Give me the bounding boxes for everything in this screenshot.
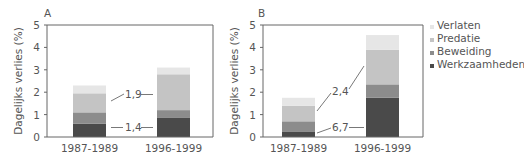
bar-segment-werkzaamheden <box>157 118 190 137</box>
bar-segment-predatie <box>73 93 106 112</box>
annotation-a-predatie: 1,9 <box>125 88 142 100</box>
x-tick-label: 1987-1989 <box>61 142 118 154</box>
legend-label-verlaten: Verlaten <box>437 19 481 31</box>
bar-segment-beweiding <box>366 84 399 97</box>
y-ticks-a: 012345 <box>33 19 47 143</box>
y-tick-label: 2 <box>33 86 40 98</box>
bar-segment-verlaten <box>157 68 190 75</box>
bar-segment-werkzaamheden <box>366 98 399 137</box>
legend-swatch-verlaten <box>430 25 434 29</box>
annotation-b-predatie: 2,4 <box>332 85 349 97</box>
bar-segment-predatie <box>282 106 315 122</box>
y-tick-label: 0 <box>249 131 256 143</box>
x-tick-labels-a: 1987-19891996-1999 <box>61 142 202 154</box>
y-axis-label-b: Dagelijks verlies (%) <box>228 27 240 135</box>
y-tick-label: 5 <box>33 19 40 31</box>
figure: A Dagelijks verlies (%) 012345 1987-1989… <box>0 0 524 159</box>
annotation-line <box>317 128 331 133</box>
annotations-a: 1,9 1,4 <box>111 88 153 133</box>
y-tick-label: 3 <box>33 64 40 76</box>
panel-a: A Dagelijks verlies (%) 012345 1987-1989… <box>12 7 213 154</box>
panel-b: B Dagelijks verlies (%) 012345 1987-1989… <box>228 7 423 154</box>
annotation-line <box>111 94 124 101</box>
y-tick-label: 1 <box>249 109 256 121</box>
x-tick-label: 1996-1999 <box>145 142 202 154</box>
legend-label-predatie: Predatie <box>437 32 480 44</box>
annotation-line <box>349 66 364 89</box>
y-tick-label: 3 <box>249 64 256 76</box>
y-tick-label: 4 <box>33 41 40 53</box>
legend-swatch-werkzaamheden <box>430 64 434 68</box>
y-tick-label: 1 <box>33 109 40 121</box>
bar-segment-predatie <box>366 50 399 85</box>
bar-segment-verlaten <box>73 85 106 93</box>
y-tick-label: 0 <box>33 131 40 143</box>
annotation-b-werkzaamheden: 6,7 <box>332 121 349 133</box>
x-tick-labels-b: 1987-19891996-1999 <box>270 142 411 154</box>
annotations-b: 2,4 6,7 <box>317 66 364 133</box>
y-tick-label: 2 <box>249 86 256 98</box>
bar-segment-predatie <box>157 74 190 110</box>
bar-segment-verlaten <box>366 35 399 50</box>
y-axis-label-a: Dagelijks verlies (%) <box>12 27 24 135</box>
x-tick-label: 1996-1999 <box>354 142 411 154</box>
y-ticks-b: 012345 <box>249 19 263 143</box>
legend: VerlatenPredatieBeweidingWerkzaamheden <box>430 19 524 70</box>
legend-label-werkzaamheden: Werkzaamheden <box>437 58 524 70</box>
annotation-line <box>317 93 331 111</box>
legend-swatch-beweiding <box>430 51 434 55</box>
y-tick-label: 5 <box>249 19 256 31</box>
x-tick-label: 1987-1989 <box>270 142 327 154</box>
bar-segment-werkzaamheden <box>73 124 106 137</box>
panel-label-b: B <box>258 7 265 19</box>
legend-swatch-predatie <box>430 38 434 42</box>
bar-segment-werkzaamheden <box>282 131 315 137</box>
bar-segment-beweiding <box>282 121 315 131</box>
bar-segment-beweiding <box>157 110 190 118</box>
panel-label-a: A <box>44 7 52 19</box>
legend-label-beweiding: Beweiding <box>437 45 492 57</box>
bar-segment-beweiding <box>73 112 106 123</box>
y-tick-label: 4 <box>249 41 256 53</box>
bar-segment-verlaten <box>282 98 315 106</box>
annotation-a-werkzaamheden: 1,4 <box>125 121 142 133</box>
